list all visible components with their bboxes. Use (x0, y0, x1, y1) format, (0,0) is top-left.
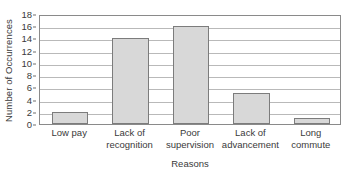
y-tick-label: 10 (21, 59, 32, 69)
x-tick-label-line: commute (281, 139, 341, 151)
x-tick-label-line: advancement (220, 139, 280, 151)
y-axis-title: Number of Occurrences (0, 0, 16, 140)
x-tick-label-line: Lack of (220, 127, 280, 139)
x-tick-label: Poorsupervision (160, 127, 220, 150)
y-tick-mark (33, 125, 36, 126)
x-axis-title: Reasons (39, 158, 341, 169)
x-tick-label-line: Long (281, 127, 341, 139)
x-tick-label-line: Lack of (99, 127, 159, 139)
bar-chart-figure: Number of Occurrences 024681012141618 Lo… (0, 0, 354, 184)
y-tick-mark (33, 112, 36, 113)
y-tick-mark (33, 76, 36, 77)
y-tick-mark (33, 15, 36, 16)
y-tick-label: 8 (27, 71, 32, 81)
bar[interactable] (52, 112, 88, 124)
y-tick-mark (33, 100, 36, 101)
x-tick-label-line: recognition (99, 139, 159, 151)
bars-layer (40, 16, 340, 124)
x-tick-label-line: supervision (160, 139, 220, 151)
y-tick-label: 2 (27, 108, 32, 118)
bar[interactable] (294, 118, 330, 124)
x-tick-label: Longcommute (281, 127, 341, 150)
y-tick-label: 0 (27, 120, 32, 130)
y-tick-label: 14 (21, 35, 32, 45)
bar[interactable] (233, 93, 269, 124)
x-tick-label: Lack ofrecognition (99, 127, 159, 150)
y-tick-mark (33, 63, 36, 64)
y-tick-label: 16 (21, 22, 32, 32)
x-tick-label-line: Low pay (39, 127, 99, 139)
y-axis-title-text: Number of Occurrences (3, 19, 14, 122)
x-tick-label-line: Poor (160, 127, 220, 139)
y-axis-tick-labels: 024681012141618 (16, 15, 36, 125)
y-tick-label: 4 (27, 96, 32, 106)
bar[interactable] (173, 26, 209, 124)
y-tick-label: 12 (21, 47, 32, 57)
x-axis-tick-labels: Low payLack ofrecognitionPoorsupervision… (39, 127, 341, 157)
y-tick-mark (33, 39, 36, 40)
y-tick-mark (33, 27, 36, 28)
x-tick-label: Lack ofadvancement (220, 127, 280, 150)
x-tick-label: Low pay (39, 127, 99, 139)
y-tick-mark (33, 51, 36, 52)
y-tick-mark (33, 88, 36, 89)
plot-area (39, 15, 341, 125)
y-tick-label: 18 (21, 10, 32, 20)
y-tick-label: 6 (27, 84, 32, 94)
bar[interactable] (112, 38, 148, 124)
